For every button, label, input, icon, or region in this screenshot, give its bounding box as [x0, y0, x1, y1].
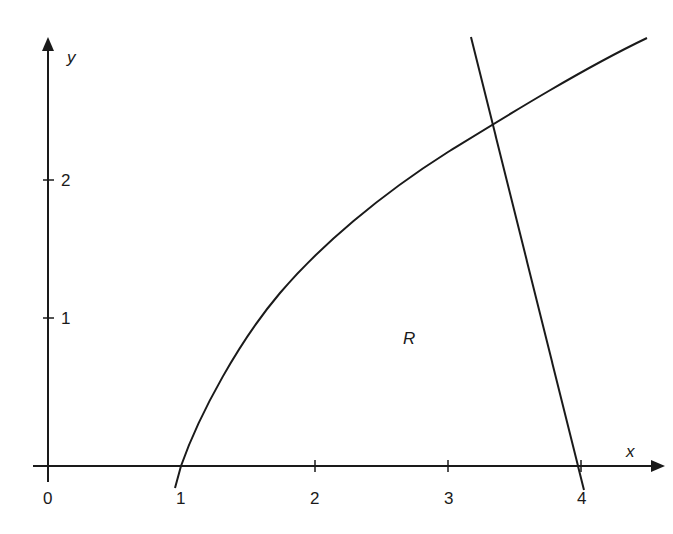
straight-line [471, 37, 584, 490]
origin-label: 0 [43, 489, 52, 508]
graph-canvas: y x 0 1 2 3 4 1 2 R [0, 0, 673, 534]
y-tick-label-2: 2 [61, 171, 70, 190]
x-axis-label: x [625, 442, 635, 461]
log-curve [175, 38, 647, 488]
x-axis-arrow-icon [651, 460, 665, 472]
x-tick-label-4: 4 [577, 489, 586, 508]
x-tick-label-1: 1 [176, 489, 185, 508]
y-axis-label: y [66, 48, 77, 67]
x-tick-label-2: 2 [310, 489, 319, 508]
region-label: R [403, 329, 415, 348]
y-axis-arrow-icon [42, 37, 54, 51]
x-tick-label-3: 3 [444, 489, 453, 508]
y-tick-label-1: 1 [61, 309, 70, 328]
